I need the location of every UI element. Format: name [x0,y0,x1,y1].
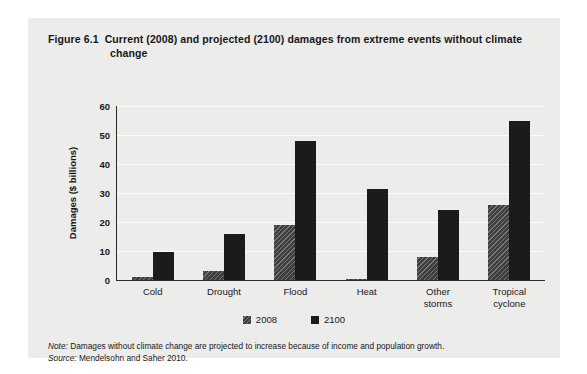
bar-group: Flood [260,106,331,280]
bar-other-storms-2100 [438,210,459,280]
legend-label: 2008 [256,314,277,325]
note-line: Note: Damages without climate change are… [48,341,548,353]
x-axis-tick-line: storms [402,298,473,310]
x-axis-tick-line: cyclone [474,298,545,310]
x-axis-tick-line: Heat [331,286,402,298]
note-label: Note: [48,341,68,351]
y-axis-tick-label: 40 [99,159,110,170]
bar-cold-2100 [153,252,174,280]
y-axis-tick-label: 20 [99,217,110,228]
bar-other-storms-2008 [417,257,438,280]
y-axis-tick-label: 50 [99,130,110,141]
y-axis-tick-label: 10 [99,246,110,257]
y-axis-label: Damages ($ billions) [67,147,78,239]
figure-title: Figure 6.1 Current (2008) and projected … [48,32,543,60]
figure-number: Figure 6.1 [48,33,99,45]
x-axis-tick-label: Tropicalcyclone [474,286,545,309]
legend-swatch-icon [243,316,251,324]
x-axis-tick-line: Drought [188,286,259,298]
legend-item-2100: 2100 [311,314,345,325]
source-text: Mendelsohn and Saher 2010. [79,353,188,363]
bar-tropical-cyclone-2008 [488,205,509,280]
source-label: Source: [48,353,77,363]
y-axis-tick-label: 0 [105,275,110,286]
x-axis-tick-label: Cold [117,286,188,298]
bar-drought-2008 [203,271,224,280]
legend-item-2008: 2008 [243,314,277,325]
bar-group: Cold [117,106,188,280]
x-axis-tick-line: Flood [260,286,331,298]
chart-legend: 20082100 [28,314,560,325]
x-axis-tick-label: Flood [260,286,331,298]
bar-group: Heat [331,106,402,280]
x-axis-tick-label: Drought [188,286,259,298]
bar-tropical-cyclone-2100 [509,121,530,281]
bar-flood-2100 [295,141,316,280]
bar-heat-2008 [346,279,367,281]
x-axis-tick-line: Cold [117,286,188,298]
figure-title-text: Current (2008) and projected (2100) dama… [105,33,523,59]
bar-group: Drought [188,106,259,280]
x-axis-tick-label: Otherstorms [402,286,473,309]
bar-cold-2008 [132,277,153,280]
bar-group: Tropicalcyclone [474,106,545,280]
bar-heat-2100 [367,189,388,280]
figure-notes: Note: Damages without climate change are… [48,341,548,364]
bars-layer: ColdDroughtFloodHeatOtherstormsTropicalc… [117,106,545,280]
legend-swatch-icon [311,316,319,324]
bar-drought-2100 [224,234,245,280]
bar-group: Otherstorms [402,106,473,280]
y-axis-tick-label: 60 [99,101,110,112]
x-axis-tick-line: Other [402,286,473,298]
x-axis-tick-line: Tropical [474,286,545,298]
plot-area: 0102030405060 ColdDroughtFloodHeatOthers… [116,106,545,281]
note-text: Damages without climate change are proje… [70,341,444,351]
figure-panel: Figure 6.1 Current (2008) and projected … [28,18,560,358]
source-line: Source: Mendelsohn and Saher 2010. [48,353,548,365]
legend-label: 2100 [324,314,345,325]
bar-flood-2008 [274,225,295,280]
y-axis-tick-label: 30 [99,188,110,199]
x-axis-tick-label: Heat [331,286,402,298]
